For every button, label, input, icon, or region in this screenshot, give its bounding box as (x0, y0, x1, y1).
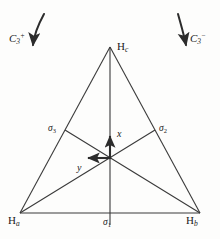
diagram-canvas (0, 0, 220, 239)
mirror-plane-sigma-3-line (65, 130, 200, 213)
mirror-plane-label-sigma-3: σ3 (48, 124, 56, 134)
vertex-hb-element: H (186, 214, 194, 226)
vertex-hc-element: H (117, 40, 125, 52)
rotation-label-c3-minus: C3− (190, 33, 206, 46)
mirror-plane-sigma-2-line (20, 130, 155, 213)
y-axis-label: y (77, 163, 81, 173)
c3-plus-superscript: + (20, 32, 25, 40)
c3v-symmetry-diagram: Hc Ha Hb σ1 σ2 σ3 x y C3+ C3− (0, 0, 220, 239)
vertex-hb-subscript: b (194, 219, 198, 228)
sigma-1-subscript: 1 (108, 221, 111, 228)
mirror-plane-label-sigma-2: σ2 (159, 124, 167, 134)
rotation-label-c3-plus: C3+ (9, 33, 25, 46)
c3-minus-superscript: − (201, 32, 206, 40)
sigma-2-subscript: 2 (164, 127, 167, 134)
sigma-3-subscript: 3 (53, 127, 56, 134)
vertex-label-hb: Hb (186, 215, 198, 228)
c3-plus-rotation-arrow (33, 14, 44, 45)
vertex-label-hc: Hc (117, 41, 128, 54)
vertex-ha-element: H (8, 214, 16, 226)
vertex-label-ha: Ha (8, 215, 20, 228)
c3-minus-rotation-arrow (178, 14, 186, 45)
mirror-plane-label-sigma-1: σ1 (103, 218, 111, 228)
x-axis-label: x (117, 129, 121, 139)
vertex-ha-subscript: a (16, 219, 20, 228)
vertex-hc-subscript: c (125, 45, 128, 54)
